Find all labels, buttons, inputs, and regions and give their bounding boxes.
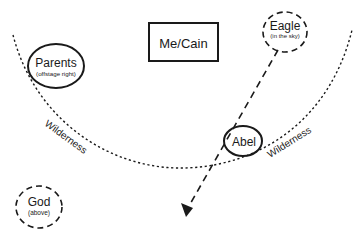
parents-node[interactable]: Parents (offstage right): [28, 44, 84, 88]
abel-node[interactable]: Abel: [224, 126, 262, 156]
me-cain-node[interactable]: Me/Cain: [149, 23, 218, 61]
wilderness-label-right: Wilderness: [265, 124, 313, 160]
god-sublabel: (above): [28, 209, 50, 217]
parents-sublabel: (offstage right): [36, 70, 76, 77]
abel-label: Abel: [232, 135, 256, 149]
arrowhead-icon: [181, 203, 193, 217]
parents-label: Parents: [35, 56, 76, 70]
eagle-label: Eagle: [270, 19, 301, 33]
me-cain-label: Me/Cain: [159, 36, 207, 51]
diagram-canvas: Wilderness Wilderness Me/Cain Parents (o…: [0, 0, 361, 240]
god-node[interactable]: God (above): [16, 186, 62, 228]
eagle-sublabel: (in the sky): [270, 33, 299, 39]
eagle-node[interactable]: Eagle (in the sky): [263, 12, 307, 52]
god-label: God: [28, 195, 51, 209]
